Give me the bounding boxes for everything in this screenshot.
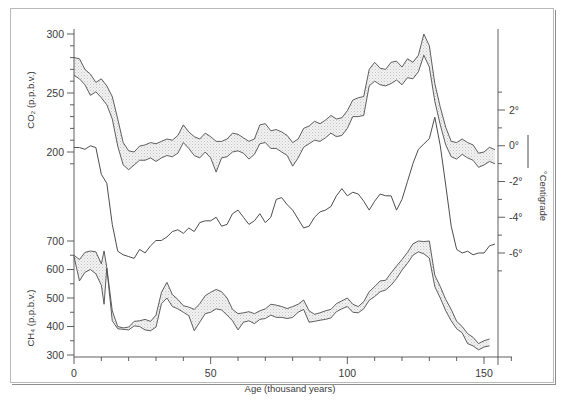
age-tick-label: 0 [71,367,77,379]
series-lines [74,34,495,350]
co2-tick-label: 250 [46,87,64,99]
temperature-tick-label: -4° [509,211,523,223]
temperature-tick-label: -6° [509,247,523,259]
co2-axis-title-text: CO₂ (p.p.b.v.) [25,71,36,128]
figure-page: 300250200 700600500400300 050100150 2°0°… [0,0,566,412]
ch4-axis: 700600500400300 [46,235,74,361]
co2-band [74,34,495,172]
age-axis: 050100150 [71,357,512,379]
ch4-tick-label: 300 [46,349,64,361]
co2-tick-label: 200 [46,146,64,158]
temperature-tick-label: 2° [509,104,519,116]
age-tick-label: 100 [339,367,357,379]
ice-core-chart: 300250200 700600500400300 050100150 2°0°… [0,0,566,412]
temperature-tick-label: -2° [509,175,523,187]
ch4-tick-label: 700 [46,235,64,247]
ch4-axis-title-text: CH₄ (p.p.b.v.) [25,289,36,346]
ch4-tick-label: 600 [46,263,64,275]
age-tick-label: 50 [205,367,217,379]
axis-titles: CO₂ (p.p.b.v.)CH₄ (p.p.b.v.)Age (thousan… [25,71,549,394]
ch4-band [74,241,489,350]
age-tick-label: 150 [475,367,493,379]
ch4-lower-line [74,252,489,350]
temperature-tick-label: 0° [509,139,519,151]
ch4-tick-label: 500 [46,292,64,304]
co2-tick-label: 300 [46,28,64,40]
co2-axis: 300250200 [46,28,74,358]
age-axis-title-text: Age (thousand years) [245,383,336,394]
ch4-tick-label: 400 [46,320,64,332]
temperature-axis-title-text: °Centigrade [538,171,549,221]
temperature-axis: 2°0°-2°-4°-6° [498,29,523,365]
